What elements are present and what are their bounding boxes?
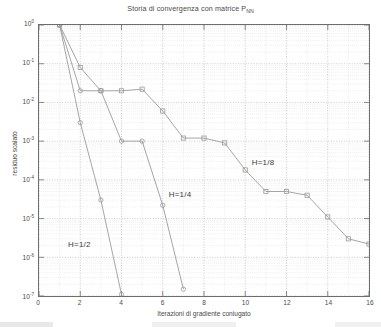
y-tick-label-2: 10-2 [4, 97, 34, 105]
x-axis-title: Iterazioni di gradiente coniugato [38, 310, 370, 317]
y-tick-label-1: 10-1 [4, 58, 34, 66]
y-axis-title: residuo scalato [11, 94, 18, 214]
series-H-1-2 [57, 25, 123, 296]
series-H-1-8 [58, 25, 369, 246]
x-tick-label-1: 2 [68, 299, 92, 306]
y-tick-label-0: 100 [4, 19, 34, 27]
chart-title: Storia di convergenza con matrice PNN [0, 4, 381, 14]
curve-label-H-1-2: H=1/2 [68, 240, 91, 249]
x-tick-label-6: 12 [275, 299, 299, 306]
scan-artifact [0, 322, 381, 327]
curve-label-H-1-4: H=1/4 [169, 190, 192, 199]
x-tick-label-4: 8 [192, 299, 216, 306]
y-tick-label-6: 10-6 [4, 253, 34, 261]
data-series-layer [39, 25, 369, 296]
curve-label-H-1-8: H=1/8 [252, 158, 275, 167]
figure-canvas: Storia di convergenza con matrice PNN 10… [0, 0, 381, 327]
x-tick-label-7: 14 [317, 299, 341, 306]
x-tick-label-8: 16 [358, 299, 381, 306]
x-tick-label-2: 4 [109, 299, 133, 306]
y-tick-label-4: 10-4 [4, 175, 34, 183]
x-tick-label-3: 6 [151, 299, 175, 306]
y-tick-label-5: 10-5 [4, 214, 34, 222]
chart-title-subscript: NN [246, 8, 254, 14]
plot-area [38, 24, 370, 297]
y-tick-label-3: 10-3 [4, 136, 34, 144]
x-tick-label-0: 0 [26, 299, 50, 306]
chart-title-text: Storia di convergenza con matrice P [127, 4, 246, 13]
x-tick-label-5: 10 [234, 299, 258, 306]
series-H-1-4 [57, 25, 185, 291]
